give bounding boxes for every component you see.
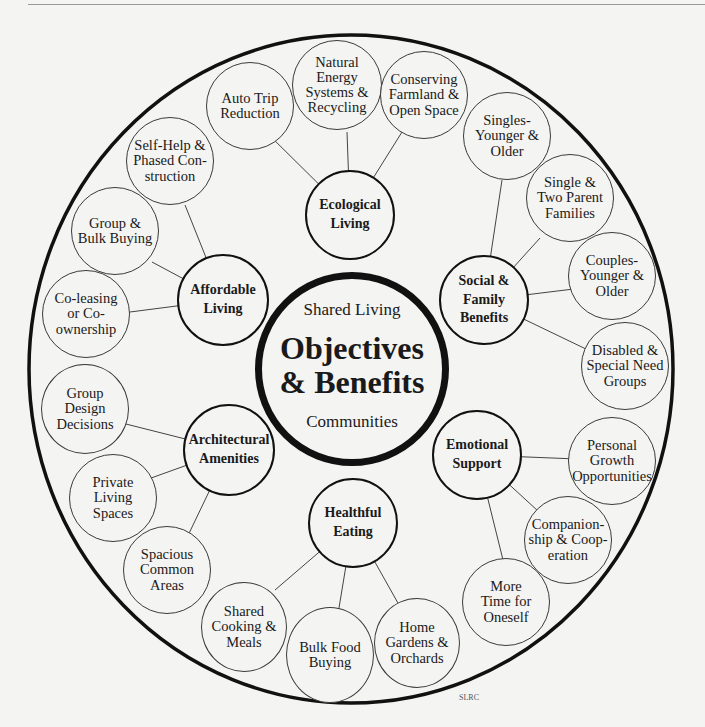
detail-group-design-decisions: Group Design Decisions: [41, 364, 129, 454]
detail-disabled-special-need: Disabled & Special Need Groups: [581, 322, 669, 410]
detail-home-gardens-orchards: Home Gardens & Orchards: [374, 598, 460, 688]
detail-group-bulk-buying: Group & Bulk Buying: [71, 187, 159, 275]
detail-bulk-food-buying: Bulk Food Buying: [286, 607, 374, 703]
detail-spacious-common-areas: Spacious Common Areas: [123, 526, 211, 614]
detail-more-time-oneself: More Time for Oneself: [462, 558, 550, 646]
detail-conserving-farmland: Conserving Farmland & Open Space: [380, 51, 468, 139]
category-healthful-eating: Healthful Eating: [308, 478, 398, 568]
detail-private-living-spaces: Private Living Spaces: [69, 454, 157, 542]
diagram-canvas: Shared Living Objectives & Benefits Comm…: [0, 0, 705, 727]
detail-shared-cooking-meals: Shared Cooking & Meals: [201, 582, 287, 672]
center-bottom-label: Communities: [306, 413, 398, 431]
center-top-label: Shared Living: [304, 301, 401, 319]
detail-personal-growth: Personal Growth Opportunities: [568, 417, 656, 505]
category-affordable-living: Affordable Living: [177, 254, 269, 346]
category-emotional-support: Emotional Support: [432, 410, 522, 500]
detail-self-help-phased-construction: Self-Help & Phased Con- struction: [126, 117, 214, 205]
detail-couples-younger-older: Couples- Younger & Older: [568, 232, 656, 320]
central-objectives-node: Shared Living Objectives & Benefits Comm…: [255, 272, 449, 466]
detail-co-leasing-co-ownership: Co-leasing or Co- ownership: [42, 270, 130, 358]
category-ecological-living: Ecological Living: [305, 170, 395, 260]
detail-natural-energy-recycling: Natural Energy Systems & Recycling: [292, 40, 382, 130]
center-title: Objectives & Benefits: [280, 332, 425, 399]
detail-auto-trip-reduction: Auto Trip Reduction: [206, 62, 294, 150]
category-architectural-amenities: Architectural Amenities: [183, 404, 275, 496]
detail-single-two-parent-families: Single & Two Parent Families: [526, 154, 614, 242]
category-social-family-benefits: Social & Family Benefits: [439, 255, 529, 345]
credit-label: SLRC: [459, 693, 479, 702]
